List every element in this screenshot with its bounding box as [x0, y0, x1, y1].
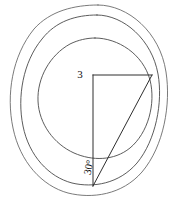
oval-inner-curve — [38, 38, 152, 158]
triangle-hypotenuse — [93, 75, 152, 186]
label-vertical-leg: 3 — [77, 68, 83, 80]
geometry-figure: 3 30° — [0, 0, 172, 204]
figure-canvas: 3 30° — [0, 0, 172, 204]
